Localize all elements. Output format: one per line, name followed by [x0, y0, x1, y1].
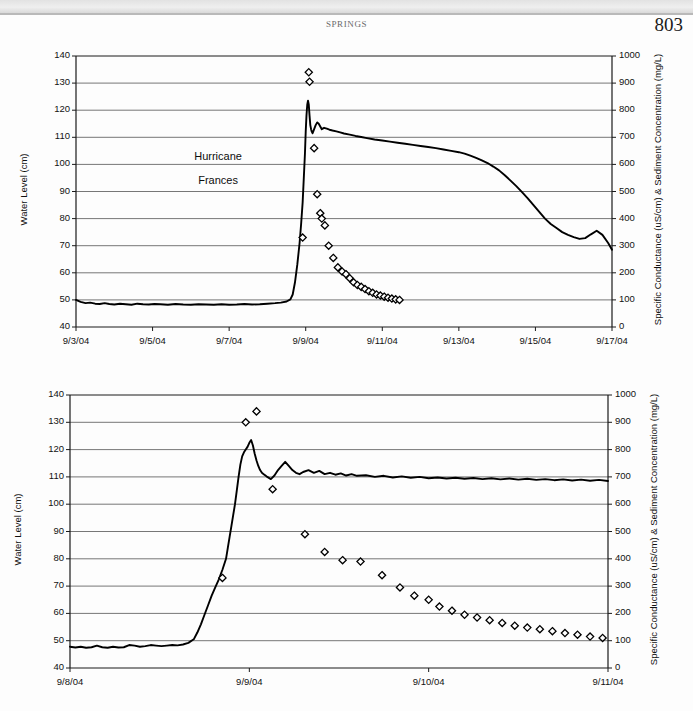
data-point-marker — [396, 584, 403, 591]
y-axis-left-tick-label: 80 — [42, 212, 70, 223]
page-scan-edge — [0, 0, 693, 13]
data-point-marker — [305, 69, 312, 76]
data-point-marker — [339, 557, 346, 564]
y-axis-right-tick-label: 200 — [619, 266, 653, 277]
y-axis-left-tick-label: 140 — [36, 388, 64, 399]
y-axis-right-tick-label: 0 — [615, 661, 649, 672]
series-markers-sediment — [299, 69, 403, 304]
page-header-rule — [0, 13, 693, 15]
x-axis-tick-label: 9/10/04 — [399, 676, 459, 687]
y-axis-left-tick-label: 50 — [36, 634, 64, 645]
data-point-marker — [242, 419, 249, 426]
y-axis-right-tick-label: 100 — [619, 293, 653, 304]
y-axis-left-title: Water Level (cm) — [18, 124, 29, 254]
plot-canvas — [0, 378, 693, 703]
data-point-marker — [325, 242, 332, 249]
x-axis-tick-label: 9/11/04 — [578, 676, 638, 687]
y-axis-right-title: Specific Conductance (uS/cm) & Sediment … — [648, 374, 659, 684]
y-axis-right-tick-label: 500 — [615, 525, 649, 536]
data-point-marker — [473, 614, 480, 621]
x-axis-tick-label: 9/15/04 — [505, 335, 565, 346]
data-point-marker — [330, 254, 337, 261]
y-axis-left-tick-label: 60 — [36, 606, 64, 617]
y-axis-right-tick-label: 900 — [619, 76, 653, 87]
y-axis-left-tick-label: 90 — [36, 525, 64, 536]
x-axis-tick-label: 9/9/04 — [219, 676, 279, 687]
y-axis-right-tick-label: 300 — [619, 239, 653, 250]
data-point-marker — [574, 631, 581, 638]
y-axis-right-tick-label: 400 — [615, 552, 649, 563]
data-point-marker — [549, 628, 556, 635]
y-axis-right-tick-label: 500 — [619, 185, 653, 196]
y-axis-right-tick-label: 400 — [619, 212, 653, 223]
y-axis-right-tick-label: 0 — [619, 320, 653, 331]
plot-annotation: Hurricane — [194, 150, 242, 162]
x-axis-tick-label: 9/13/04 — [429, 335, 489, 346]
y-axis-left-tick-label: 40 — [42, 320, 70, 331]
y-axis-left-tick-label: 120 — [36, 443, 64, 454]
y-axis-right-tick-label: 600 — [619, 157, 653, 168]
data-point-marker — [436, 603, 443, 610]
y-axis-left-tick-label: 40 — [36, 661, 64, 672]
y-axis-left-tick-label: 90 — [42, 185, 70, 196]
x-axis-tick-label: 9/8/04 — [40, 676, 100, 687]
y-axis-right-tick-label: 1000 — [619, 49, 653, 60]
y-axis-left-tick-label: 50 — [42, 293, 70, 304]
running-head: SPRINGS 803 — [0, 19, 693, 35]
page-number: 803 — [655, 14, 684, 36]
y-axis-left-title: Water Level (cm) — [12, 464, 23, 594]
y-axis-right-tick-label: 800 — [619, 103, 653, 114]
x-axis-tick-label: 9/7/04 — [199, 335, 259, 346]
data-point-marker — [524, 624, 531, 631]
y-axis-left-tick-label: 110 — [36, 470, 64, 481]
data-point-marker — [461, 611, 468, 618]
data-point-marker — [511, 622, 518, 629]
y-axis-left-tick-label: 130 — [42, 76, 70, 87]
y-axis-right-tick-label: 100 — [615, 634, 649, 645]
data-point-marker — [561, 629, 568, 636]
series-line-water-level — [70, 440, 608, 648]
y-axis-right-title: Specific Conductance (uS/cm) & Sediment … — [652, 34, 663, 344]
y-axis-right-tick-label: 800 — [615, 443, 649, 454]
figure-bottom-chart: 4050607080901001101201301400100200300400… — [0, 378, 693, 703]
y-axis-left-tick-label: 70 — [42, 239, 70, 250]
y-axis-left-tick-label: 110 — [42, 130, 70, 141]
plot-canvas — [0, 44, 693, 360]
data-point-marker — [321, 222, 328, 229]
running-head-title: SPRINGS — [0, 19, 693, 29]
y-axis-right-tick-label: 700 — [619, 130, 653, 141]
y-axis-left-tick-label: 100 — [36, 497, 64, 508]
data-point-marker — [269, 486, 276, 493]
x-axis-tick-label: 9/11/04 — [352, 335, 412, 346]
data-point-marker — [536, 626, 543, 633]
y-axis-left-tick-label: 120 — [42, 103, 70, 114]
scanned-page: SPRINGS 803 4050607080901001101201301400… — [0, 0, 693, 711]
data-point-marker — [306, 78, 313, 85]
y-axis-right-tick-label: 600 — [615, 497, 649, 508]
plot-annotation: Frances — [198, 174, 238, 186]
data-point-marker — [411, 592, 418, 599]
y-axis-left-tick-label: 140 — [42, 49, 70, 60]
data-point-marker — [253, 408, 260, 415]
y-axis-left-tick-label: 80 — [36, 552, 64, 563]
data-point-marker — [378, 572, 385, 579]
y-axis-left-tick-label: 70 — [36, 579, 64, 590]
x-axis-tick-label: 9/9/04 — [276, 335, 336, 346]
y-axis-right-tick-label: 300 — [615, 579, 649, 590]
x-axis-tick-label: 9/5/04 — [123, 335, 183, 346]
y-axis-right-tick-label: 1000 — [615, 388, 649, 399]
y-axis-left-tick-label: 100 — [42, 157, 70, 168]
y-axis-left-tick-label: 60 — [42, 266, 70, 277]
data-point-marker — [321, 548, 328, 555]
figure-top-chart: 4050607080901001101201301400100200300400… — [0, 44, 693, 360]
x-axis-tick-label: 9/3/04 — [46, 335, 106, 346]
y-axis-right-tick-label: 700 — [615, 470, 649, 481]
data-point-marker — [425, 596, 432, 603]
data-point-marker — [311, 145, 318, 152]
data-point-marker — [586, 633, 593, 640]
series-markers-sediment — [219, 408, 606, 642]
x-axis-tick-label: 9/17/04 — [582, 335, 642, 346]
y-axis-right-tick-label: 900 — [615, 415, 649, 426]
y-axis-right-tick-label: 200 — [615, 606, 649, 617]
data-point-marker — [486, 617, 493, 624]
